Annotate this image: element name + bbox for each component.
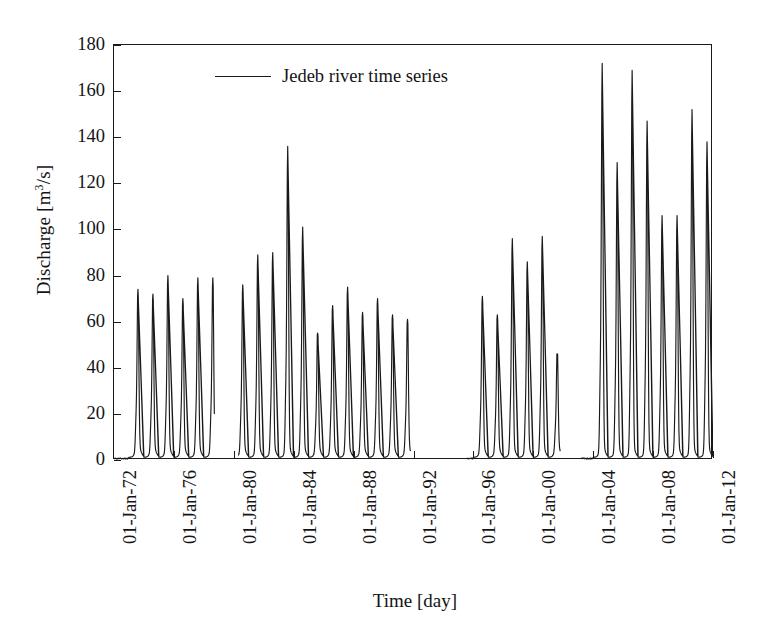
chart-figure: Discharge [m3/s] Time [day] 020406080100… [0, 0, 765, 636]
x-tick-label: 01-Jan-96 [479, 470, 500, 590]
x-tick-label: 01-Jan-00 [539, 470, 560, 590]
axis-labels-layer: 02040608010012014016018001-Jan-7201-Jan-… [0, 0, 765, 636]
legend-line-icon [215, 76, 271, 77]
y-tick-label: 100 [25, 218, 105, 239]
legend-label-jedeb-river-time-series: Jedeb river time series [282, 66, 448, 87]
y-tick-label: 180 [25, 34, 105, 55]
y-tick-label: 160 [25, 80, 105, 101]
x-tick-label: 01-Jan-72 [120, 470, 141, 590]
chart-legend: Jedeb river time series [215, 66, 448, 87]
x-tick-label: 01-Jan-08 [659, 470, 680, 590]
y-tick-label: 140 [25, 126, 105, 147]
y-tick-label: 60 [25, 310, 105, 331]
y-tick-label: 0 [25, 449, 105, 470]
x-tick-label: 01-Jan-80 [240, 470, 261, 590]
y-tick-label: 80 [25, 264, 105, 285]
x-tick-label: 01-Jan-76 [180, 470, 201, 590]
x-tick-label: 01-Jan-04 [599, 470, 620, 590]
y-tick-label: 40 [25, 356, 105, 377]
x-tick-label: 01-Jan-92 [420, 470, 441, 590]
y-tick-label: 20 [25, 402, 105, 423]
y-tick-label: 120 [25, 172, 105, 193]
x-tick-label: 01-Jan-84 [300, 470, 321, 590]
x-tick-label: 01-Jan-12 [719, 470, 740, 590]
x-tick-label: 01-Jan-88 [360, 470, 381, 590]
